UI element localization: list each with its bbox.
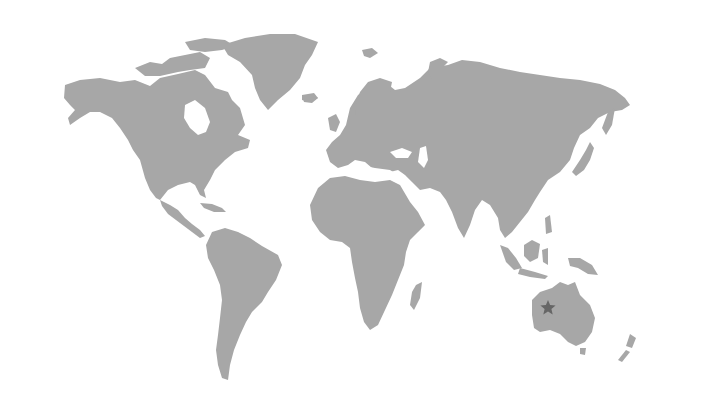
africa	[310, 176, 425, 330]
australia	[532, 282, 636, 362]
south-america	[206, 228, 282, 380]
world-map	[0, 0, 701, 411]
north-america	[64, 38, 250, 238]
world-map-svg	[0, 0, 701, 411]
